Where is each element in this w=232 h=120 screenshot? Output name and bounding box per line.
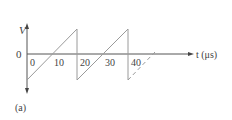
y-axis-label: V <box>19 24 27 36</box>
x-tick-30: 30 <box>105 57 115 68</box>
x-tick-40: 40 <box>131 57 141 68</box>
x-axis-label: t (μs) <box>196 49 217 61</box>
y-axis-down-arrow-icon <box>25 88 29 94</box>
sawtooth-chart: V 0 0 10 20 30 40 t (μs) (a) <box>0 0 232 120</box>
panel-label: (a) <box>15 102 26 114</box>
x-tick-10: 10 <box>54 57 64 68</box>
x-axis-arrow-icon <box>188 52 194 56</box>
y-tick-0: 0 <box>16 48 22 60</box>
x-tick-20: 20 <box>80 57 90 68</box>
chart-canvas: V 0 0 10 20 30 40 t (μs) (a) <box>0 0 232 120</box>
x-tick-0: 0 <box>30 57 35 68</box>
